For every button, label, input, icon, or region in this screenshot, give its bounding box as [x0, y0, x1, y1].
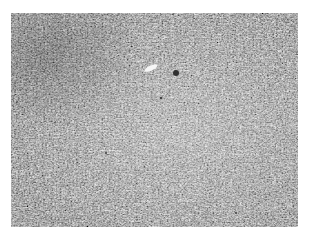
tissue-texture	[11, 13, 298, 227]
micrograph	[11, 13, 298, 227]
dark-cell-cluster	[173, 70, 179, 76]
